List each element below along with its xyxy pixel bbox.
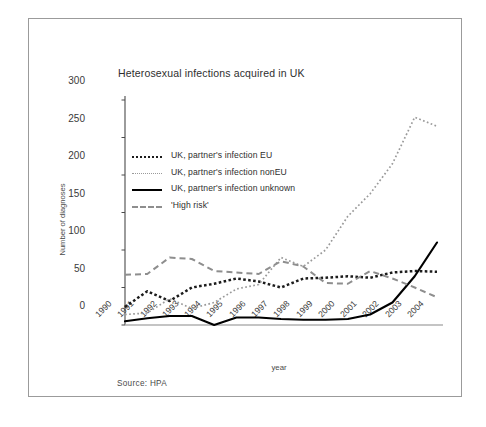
legend-label-noneu: UK, partner's infection nonEU: [171, 167, 287, 177]
legend-swatch-noneu-icon: [132, 173, 162, 178]
series-line-0: [125, 271, 437, 307]
source-note: Source: HPA: [117, 379, 167, 388]
series-line-3: [125, 258, 437, 298]
legend-label-eu: UK, partner's infection EU: [171, 150, 272, 160]
legend-swatch-eu-icon: [132, 156, 162, 162]
chart-plot-area: [29, 19, 486, 427]
series-line-2: [125, 243, 437, 326]
figure-frame: Heterosexual infections acquired in UK N…: [28, 18, 462, 397]
legend-swatch-unknown-icon: [132, 189, 162, 195]
legend-label-high-risk: 'High risk': [171, 200, 209, 210]
series-line-1: [125, 117, 437, 314]
legend-label-unknown: UK, partner's infection unknown: [171, 183, 295, 193]
legend-swatch-high-risk-icon: [132, 206, 162, 212]
